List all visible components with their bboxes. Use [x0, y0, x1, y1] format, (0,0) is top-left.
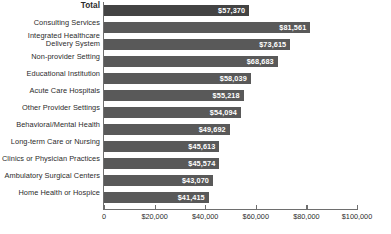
bar-category-label: Ambulatory Surgical Centers: [0, 172, 100, 180]
bar-value-label: $68,683: [247, 57, 274, 66]
bar-row: Total$57,370: [0, 2, 391, 19]
bar-row: Non-provider Setting$68,683: [0, 53, 391, 70]
bar-track: $57,370: [104, 5, 391, 16]
x-axis-tick-label: $100,000: [342, 212, 372, 221]
bar-row: Educational Institution$58,039: [0, 70, 391, 87]
x-axis-tick: [357, 205, 358, 210]
bar-category-label: Non-provider Setting: [0, 53, 100, 61]
x-axis-tick: [306, 205, 307, 210]
x-axis-tick: [205, 205, 206, 210]
bar-track: $49,692: [104, 124, 391, 135]
plot-area: Total$57,370Consulting Services$81,561In…: [0, 0, 391, 234]
bar-track: $81,561: [104, 22, 391, 33]
bar-track: $41,415: [104, 192, 391, 203]
bar-category-label: Other Provider Settings: [0, 104, 100, 112]
bar-track: $73,615: [104, 39, 391, 50]
bar-track: $54,094: [104, 107, 391, 118]
bar-value-label: $54,094: [210, 108, 237, 117]
x-axis-tick-label: $80,000: [293, 212, 319, 221]
bar-value-label: $49,692: [199, 125, 226, 134]
bar-row: Ambulatory Surgical Centers$43,070: [0, 172, 391, 189]
x-axis-tick-label: $20,000: [141, 212, 167, 221]
bar-value-label: $55,218: [213, 91, 240, 100]
x-axis-tick-label: 0: [102, 212, 106, 221]
bar-category-label: Clinics or Physician Practices: [0, 155, 100, 163]
bar-value-label: $43,070: [182, 176, 209, 185]
bar-row: Behavioral/Mental Health$49,692: [0, 121, 391, 138]
bar-category-label: Consulting Services: [0, 19, 100, 27]
bar-row: Other Provider Settings$54,094: [0, 104, 391, 121]
bar-track: $45,574: [104, 158, 391, 169]
bar-category-label: Behavioral/Mental Health: [0, 121, 100, 129]
y-axis-line: [103, 2, 104, 209]
bar-value-label: $45,613: [188, 142, 215, 151]
bar-category-label: Acute Care Hospitals: [0, 87, 100, 95]
bar-category-label: Home Health or Hospice: [0, 189, 100, 197]
bar-track: $45,613: [104, 141, 391, 152]
x-axis-line: [103, 209, 357, 210]
bar-category-label: Educational Institution: [0, 70, 100, 78]
x-axis-tick-label: $60,000: [243, 212, 269, 221]
bar-category-label: Long-term Care or Nursing: [0, 138, 100, 146]
bar-chart: Total$57,370Consulting Services$81,561In…: [0, 0, 391, 234]
bar-value-label: $81,561: [279, 23, 306, 32]
bar-track: $55,218: [104, 90, 391, 101]
bar-rows: Total$57,370Consulting Services$81,561In…: [0, 2, 391, 206]
bar-row: Home Health or Hospice$41,415: [0, 189, 391, 206]
x-axis-tick: [256, 205, 257, 210]
bar-category-label: Total: [0, 2, 100, 10]
bar-row: Long-term Care or Nursing$45,613: [0, 138, 391, 155]
bar-row: Acute Care Hospitals$55,218: [0, 87, 391, 104]
bar-value-label: $73,615: [259, 40, 286, 49]
x-axis-tick-label: $40,000: [192, 212, 218, 221]
bar-track: $58,039: [104, 73, 391, 84]
bar-row: Integrated Healthcare Delivery System$73…: [0, 36, 391, 53]
bar-value-label: $58,039: [220, 74, 247, 83]
bar-row: Clinics or Physician Practices$45,574: [0, 155, 391, 172]
bar-category-label: Integrated Healthcare Delivery System: [0, 32, 100, 49]
bar-value-label: $41,415: [178, 193, 205, 202]
x-axis-tick: [104, 205, 105, 210]
x-axis-tick: [155, 205, 156, 210]
bar-track: $68,683: [104, 56, 391, 67]
bar-value-label: $45,574: [188, 159, 215, 168]
bar-value-label: $57,370: [218, 6, 245, 15]
bar-track: $43,070: [104, 175, 391, 186]
